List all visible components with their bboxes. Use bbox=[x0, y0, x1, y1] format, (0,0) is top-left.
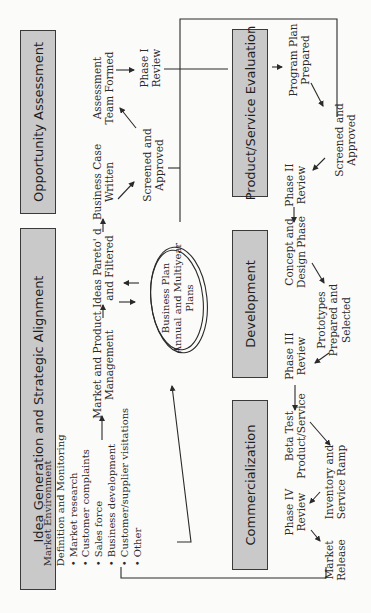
step-line: Screened and bbox=[333, 103, 345, 176]
step-line: Service Ramp bbox=[335, 445, 347, 519]
phase-label-product-service-evaluation: Product/Service Evaluation bbox=[243, 26, 258, 201]
step-line: Phase III bbox=[283, 332, 295, 379]
bullet-item: Customer/supplier visitations bbox=[119, 408, 132, 567]
step-market-product-management: Market and Product Management bbox=[91, 311, 116, 418]
phase-label-commercialization: Commercialization bbox=[243, 424, 258, 545]
step-phase-4-review: Phase IV Review bbox=[283, 489, 308, 536]
step-line: Inventory and bbox=[323, 445, 335, 519]
step-line: Review bbox=[150, 48, 162, 87]
step-line: Beta Test bbox=[283, 393, 295, 478]
bullet-item: Customer complaints bbox=[80, 408, 93, 567]
step-line: Prepared bbox=[299, 23, 311, 96]
step-assessment-team-formed: Assessment Team Formed bbox=[91, 52, 116, 125]
step-line: Product/Service bbox=[295, 393, 307, 478]
market-environment-block: Market Environment Definition and Monito… bbox=[42, 408, 144, 567]
phase-label-development: Development bbox=[243, 260, 258, 348]
step-line: Written bbox=[103, 144, 115, 220]
step-line: Phase I bbox=[138, 48, 150, 87]
step-prototypes-prepared-selected: Prototypes Prepared and Selected bbox=[315, 284, 352, 356]
step-line: Plans bbox=[184, 243, 196, 353]
step-phase-3-review: Phase III Review bbox=[283, 332, 308, 379]
step-line: Market bbox=[323, 539, 335, 581]
bullet-item: Business development bbox=[106, 408, 119, 567]
market-env-bullet-list: Market research Customer complaints Sale… bbox=[67, 408, 144, 567]
step-screened-approved-1: Screened and Approved bbox=[141, 128, 166, 201]
step-line: Business Plan bbox=[160, 243, 172, 353]
market-env-title-2: Definition and Monitoring bbox=[55, 408, 68, 567]
step-line: Approved bbox=[153, 128, 165, 201]
business-plan-label: Business Plan Annual and Multiyear Plans bbox=[160, 243, 195, 353]
step-line: Design Phase bbox=[295, 216, 307, 288]
process-diagram: Opportunity Assessment Idea Generation a… bbox=[0, 0, 371, 613]
step-line: Prototypes bbox=[315, 284, 327, 356]
step-line: Ideas Pareto' d bbox=[91, 228, 103, 308]
step-line: and Filtered bbox=[103, 228, 115, 308]
bullet-item: Market research bbox=[67, 408, 80, 567]
step-line: Selected bbox=[340, 284, 352, 356]
step-line: Review bbox=[295, 332, 307, 379]
step-line: Phase IV bbox=[283, 489, 295, 536]
step-line: Concept and bbox=[283, 216, 295, 288]
step-line: Phase II bbox=[283, 163, 295, 206]
step-line: Review bbox=[295, 489, 307, 536]
step-beta-test: Beta Test Product/Service bbox=[283, 393, 308, 478]
market-env-title-1: Market Environment bbox=[42, 408, 55, 567]
step-phase-2-review: Phase II Review bbox=[283, 163, 308, 206]
step-line: Team Formed bbox=[103, 52, 115, 125]
step-program-plan-prepared: Program Plan Prepared bbox=[287, 23, 312, 96]
step-line: Review bbox=[295, 163, 307, 206]
step-line: Annual and Multiyear bbox=[172, 243, 184, 353]
step-ideas-filtered: Ideas Pareto' d and Filtered bbox=[91, 228, 116, 308]
step-line: Approved bbox=[345, 103, 357, 176]
bullet-item: Sales force bbox=[93, 408, 106, 567]
step-line: Business Case bbox=[91, 144, 103, 220]
step-line: Market and Product bbox=[91, 311, 103, 418]
phase-label-opportunity-assessment: Opportunity Assessment bbox=[31, 42, 46, 202]
step-concept-design-phase: Concept and Design Phase bbox=[283, 216, 308, 288]
step-line: Prepared and bbox=[328, 284, 340, 356]
step-screened-approved-2: Screened and Approved bbox=[333, 103, 358, 176]
step-line: Management bbox=[103, 311, 115, 418]
step-line: Release bbox=[335, 539, 347, 581]
step-line: Assessment bbox=[91, 52, 103, 125]
step-phase-1-review: Phase I Review bbox=[138, 48, 163, 87]
step-line: Screened and bbox=[141, 128, 153, 201]
bullet-item: Other bbox=[131, 408, 144, 567]
step-business-case-written: Business Case Written bbox=[91, 144, 116, 220]
step-inventory-service-ramp: Inventory and Service Ramp bbox=[323, 445, 348, 519]
step-market-release: Market Release bbox=[323, 539, 348, 581]
step-line: Program Plan bbox=[287, 23, 299, 96]
